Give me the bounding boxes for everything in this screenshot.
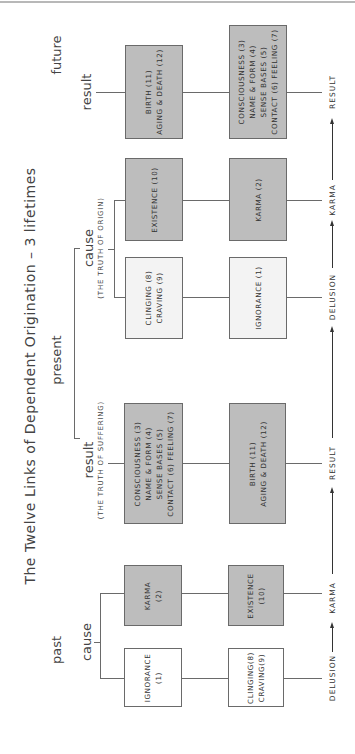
connector-line xyxy=(287,200,322,201)
box-line: CLINGING(8) xyxy=(245,652,256,704)
flow-label-present-delusion: DELUSION xyxy=(328,274,337,320)
segment-label-future-result: result xyxy=(79,74,94,111)
box-line: (2) xyxy=(153,581,164,610)
connector-line xyxy=(114,297,125,298)
diagram-title: The Twelve Links of Dependent Originatio… xyxy=(22,167,38,584)
box-text: KARMA (2) xyxy=(142,581,164,610)
box-line: (10) xyxy=(256,573,267,618)
arrow-up-icon xyxy=(330,622,334,628)
box-line: SENSE BASES (5) xyxy=(154,411,165,516)
period-label-present: present xyxy=(49,335,64,384)
box-line: KARMA (2) xyxy=(253,178,264,221)
flow-arrow-line xyxy=(332,226,333,268)
box-line: BIRTH (11) xyxy=(247,421,258,507)
connector-line xyxy=(100,678,124,679)
flow-arrow-line xyxy=(332,332,333,438)
box-line: CRAVING (9) xyxy=(154,271,165,326)
box-past-existence: EXISTENCE (10) xyxy=(228,565,284,626)
box-line: CONSCIOUSNESS (3) xyxy=(132,411,143,516)
segment-label-present-cause: cause xyxy=(81,229,96,267)
box-future-consciousness: CONSCIOUSNESS (3) NAME & FORM (4) SENSE … xyxy=(229,25,287,139)
connector-line xyxy=(108,463,124,464)
box-present-ignorance: IGNORANCE (1) xyxy=(229,257,287,339)
connector-line xyxy=(183,297,229,298)
box-text: CONSCIOUSNESS (3) NAME & FORM (4) SENSE … xyxy=(132,411,176,516)
box-line: IGNORANCE (1) xyxy=(253,266,264,330)
segment-label-past-cause: cause xyxy=(79,623,94,661)
box-line: EXISTENCE (10) xyxy=(149,167,160,232)
box-text: EXISTENCE (10) xyxy=(245,573,267,618)
period-label-past: past xyxy=(49,636,64,664)
box-text: IGNORANCE (1) xyxy=(253,266,264,330)
box-text: BIRTH (11) AGING & DEATH (12) xyxy=(247,421,269,507)
arrow-up-icon xyxy=(330,326,334,332)
flow-arrow-line xyxy=(332,490,333,574)
truth-of-suffering-label: (THE TRUTH OF SUFFERING) xyxy=(97,401,105,519)
box-text: CONSCIOUSNESS (3) NAME & FORM (4) SENSE … xyxy=(236,29,280,134)
connector-line xyxy=(100,593,124,594)
box-line: CONTACT (6) FEELING (7) xyxy=(165,411,176,516)
box-line: CLINGING (8) xyxy=(143,271,154,326)
box-line: NAME & FORM (4) xyxy=(247,29,258,134)
arrow-up-icon xyxy=(330,118,334,124)
flow-label-past-karma: KARMA xyxy=(328,582,337,614)
box-line: CONTACT (6) FEELING (7) xyxy=(269,29,280,134)
box-line: IGNORANCE xyxy=(142,653,153,702)
period-label-future: future xyxy=(49,35,64,74)
connector-line xyxy=(284,593,322,594)
box-text: CLINGING(8) CRAVING(9) xyxy=(245,652,267,704)
box-present-birth: BIRTH (11) AGING & DEATH (12) xyxy=(229,403,286,524)
box-line: SENSE BASES (5) xyxy=(258,29,269,134)
arrow-up-icon xyxy=(330,487,334,493)
box-line: NAME & FORM (4) xyxy=(143,411,154,516)
box-present-clinging: CLINGING (8) CRAVING (9) xyxy=(125,257,183,339)
connector-line xyxy=(182,678,228,679)
box-line: (1) xyxy=(153,653,164,702)
box-line: AGING & DEATH (12) xyxy=(154,49,165,135)
truth-of-origin-label: (THE TRUTH OF ORIGIN) xyxy=(97,197,105,298)
connector-line xyxy=(183,463,229,464)
flow-arrow-line xyxy=(332,628,333,652)
connector-line xyxy=(287,297,322,298)
past-cause-bracket xyxy=(100,593,101,679)
box-line: AGING & DEATH (12) xyxy=(258,421,269,507)
box-text: CLINGING (8) CRAVING (9) xyxy=(143,271,165,326)
present-bracket-end xyxy=(74,438,80,439)
arrow-up-icon xyxy=(330,220,334,226)
box-line: EXISTENCE xyxy=(245,573,256,618)
present-bracket xyxy=(74,248,75,438)
connector-line xyxy=(286,463,322,464)
box-future-birth: BIRTH (11) AGING & DEATH (12) xyxy=(125,45,183,139)
connector-line xyxy=(287,92,322,93)
box-past-ignorance: IGNORANCE (1) xyxy=(124,648,182,707)
flow-label-past-delusion: DELUSION xyxy=(328,655,337,701)
flow-label-future-result: RESULT xyxy=(328,75,337,109)
box-text: IGNORANCE (1) xyxy=(142,653,164,702)
box-present-consciousness: CONSCIOUSNESS (3) NAME & FORM (4) SENSE … xyxy=(124,403,183,524)
connector-line xyxy=(96,92,125,93)
box-past-clinging: CLINGING(8) CRAVING(9) xyxy=(228,648,284,707)
box-text: EXISTENCE (10) xyxy=(149,167,160,232)
box-line: BIRTH (11) xyxy=(143,49,154,135)
flow-arrow-line xyxy=(332,124,333,180)
present-bracket-end xyxy=(74,248,80,249)
box-line: CRAVING(9) xyxy=(256,652,267,704)
box-present-karma: KARMA (2) xyxy=(229,158,287,241)
segment-label-present-result: result xyxy=(81,442,96,479)
connector-line xyxy=(182,593,228,594)
flow-label-present-karma: KARMA xyxy=(328,184,337,216)
flow-label-present-result: RESULT xyxy=(328,446,337,480)
box-past-karma: KARMA (2) xyxy=(124,565,182,626)
connector-line xyxy=(183,92,229,93)
top-border xyxy=(0,1,355,3)
box-present-existence: EXISTENCE (10) xyxy=(125,158,183,241)
connector-line xyxy=(183,200,229,201)
connector-line xyxy=(114,200,125,201)
box-line: CONSCIOUSNESS (3) xyxy=(236,29,247,134)
cause-bracket xyxy=(114,200,115,297)
box-text: KARMA (2) xyxy=(253,178,264,221)
box-text: BIRTH (11) AGING & DEATH (12) xyxy=(143,49,165,135)
box-line: KARMA xyxy=(142,581,153,610)
connector-line xyxy=(284,678,322,679)
